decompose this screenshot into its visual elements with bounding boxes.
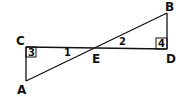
point-label-d: D xyxy=(166,52,176,66)
angle-label-4: 4 xyxy=(158,38,165,49)
point-label-a: A xyxy=(17,83,27,97)
angle-label-3: 3 xyxy=(28,47,35,58)
angle-label-2: 2 xyxy=(119,36,126,47)
angle-label-1: 1 xyxy=(64,47,71,58)
point-label-c: C xyxy=(16,34,25,48)
point-label-b: B xyxy=(165,0,174,14)
point-label-e: E xyxy=(92,52,100,66)
geometry-diagram: 3 4 1 2 C A E D B xyxy=(0,0,186,97)
